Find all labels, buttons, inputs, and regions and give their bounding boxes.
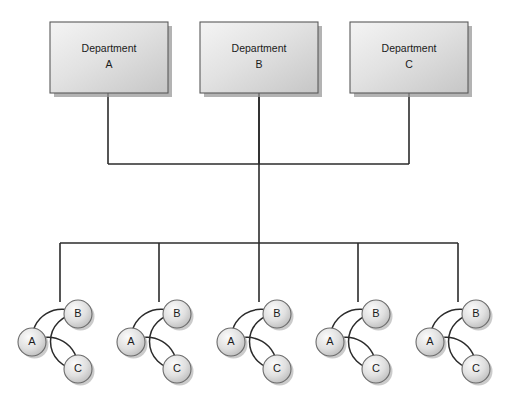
department-label-line1: Department bbox=[82, 42, 137, 54]
department-label-line1: Department bbox=[232, 42, 287, 54]
node-label: A bbox=[227, 335, 235, 347]
node-label: C bbox=[273, 362, 281, 374]
cluster-2: BCA bbox=[117, 300, 194, 386]
node-b: B bbox=[462, 300, 493, 331]
node-label: A bbox=[426, 335, 434, 347]
cluster-3: BCA bbox=[217, 300, 294, 386]
department-label-line1: Department bbox=[382, 42, 437, 54]
department-box-c: DepartmentC bbox=[350, 22, 472, 97]
node-label: B bbox=[273, 307, 280, 319]
department-label-line2: B bbox=[255, 58, 262, 70]
node-a: A bbox=[18, 328, 49, 359]
connector-lines bbox=[60, 93, 458, 302]
node-c: C bbox=[362, 355, 393, 386]
network-topology-diagram: DepartmentADepartmentBDepartmentC BCABCA… bbox=[0, 0, 515, 403]
node-c: C bbox=[462, 355, 493, 386]
node-label: C bbox=[472, 362, 480, 374]
cluster-4: BCA bbox=[316, 300, 393, 386]
node-label: B bbox=[472, 307, 479, 319]
cluster-5: BCA bbox=[416, 300, 493, 386]
node-b: B bbox=[362, 300, 393, 331]
node-label: C bbox=[173, 362, 181, 374]
department-boxes: DepartmentADepartmentBDepartmentC bbox=[50, 22, 472, 97]
cluster-1: BCA bbox=[18, 300, 95, 386]
node-b: B bbox=[263, 300, 294, 331]
node-c: C bbox=[263, 355, 294, 386]
node-label: A bbox=[127, 335, 135, 347]
department-box-b: DepartmentB bbox=[200, 22, 322, 97]
node-label: B bbox=[173, 307, 180, 319]
department-label-line2: C bbox=[405, 58, 413, 70]
department-label-line2: A bbox=[105, 58, 112, 70]
node-label: B bbox=[372, 307, 379, 319]
node-c: C bbox=[64, 355, 95, 386]
node-a: A bbox=[316, 328, 347, 359]
node-b: B bbox=[163, 300, 194, 331]
node-a: A bbox=[117, 328, 148, 359]
node-label: A bbox=[326, 335, 334, 347]
node-a: A bbox=[217, 328, 248, 359]
diagram-canvas: DepartmentADepartmentBDepartmentC BCABCA… bbox=[0, 0, 515, 403]
node-label: C bbox=[372, 362, 380, 374]
node-clusters: BCABCABCABCABCA bbox=[18, 300, 493, 386]
department-box-a: DepartmentA bbox=[50, 22, 172, 97]
node-c: C bbox=[163, 355, 194, 386]
node-label: C bbox=[74, 362, 82, 374]
node-label: B bbox=[74, 307, 81, 319]
node-b: B bbox=[64, 300, 95, 331]
node-a: A bbox=[416, 328, 447, 359]
node-label: A bbox=[28, 335, 36, 347]
